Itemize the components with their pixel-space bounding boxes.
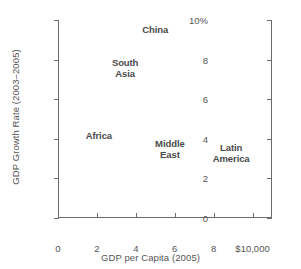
y-axis-left-line	[58, 20, 59, 219]
data-point-label: South Asia	[112, 57, 138, 79]
y-tick-label: 10%	[189, 15, 208, 26]
y-axis-title: GDP Growth Rate (2003–2005)	[10, 37, 24, 197]
x-axis-title: GDP per Capita (2005)	[0, 252, 301, 263]
y-tick-label: 2	[203, 173, 208, 184]
y-tick-mark	[54, 20, 59, 21]
y-tick-mark	[54, 60, 59, 61]
x-axis-line	[58, 217, 272, 218]
y-tick-mark	[54, 218, 59, 219]
data-point-label: Middle East	[155, 138, 184, 160]
y-tick-label: 4	[203, 133, 208, 144]
y-tick-mark-right	[267, 99, 272, 100]
x-tick-mark	[58, 213, 59, 218]
x-tick-mark	[214, 213, 215, 218]
y-tick-mark-right	[267, 178, 272, 179]
y-tick-label: 8	[203, 54, 208, 65]
y-tick-mark-right	[267, 139, 272, 140]
x-tick-mark	[97, 213, 98, 218]
y-tick-label: 6	[203, 94, 208, 105]
x-tick-mark	[175, 213, 176, 218]
data-point-label: China	[142, 23, 168, 34]
y-tick-label: 0	[203, 213, 208, 224]
y-tick-mark	[54, 99, 59, 100]
y-tick-mark-right	[267, 20, 272, 21]
x-tick-mark	[253, 213, 254, 218]
y-tick-mark	[54, 139, 59, 140]
y-axis-right-line	[271, 20, 272, 219]
x-tick-mark	[136, 213, 137, 218]
gdp-scatter-chart: 0246810% 02468$10,000 ChinaSouth AsiaAfr…	[0, 0, 301, 269]
plot-area: 0246810% 02468$10,000 ChinaSouth AsiaAfr…	[58, 20, 272, 218]
y-tick-mark	[54, 178, 59, 179]
y-tick-mark-right	[267, 218, 272, 219]
data-point-label: Latin America	[213, 142, 250, 164]
y-tick-mark-right	[267, 60, 272, 61]
data-point-label: Africa	[86, 129, 112, 140]
